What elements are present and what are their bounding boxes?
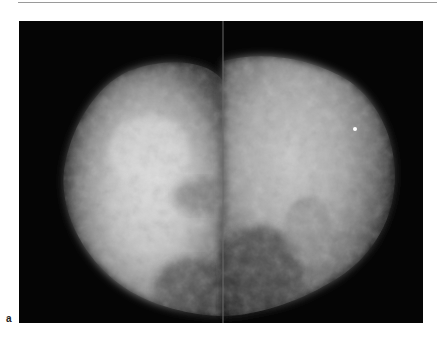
- mammogram-figure: [19, 21, 423, 323]
- top-rule: [18, 2, 437, 3]
- panel-label: a: [6, 313, 12, 324]
- calcification-spot: [353, 127, 357, 131]
- left-breast-view: [19, 21, 234, 323]
- mammogram-image: [19, 21, 423, 323]
- right-breast-view: [214, 21, 423, 323]
